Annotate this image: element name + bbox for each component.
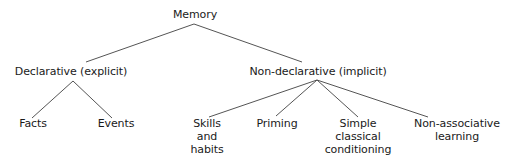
node-label-line: Non-associative bbox=[414, 117, 500, 130]
node-label: Declarative (explicit) bbox=[15, 65, 127, 78]
node-label: Non-declarative (implicit) bbox=[249, 65, 386, 78]
edge-nondeclarative-priming bbox=[276, 80, 317, 116]
node-label: Events bbox=[98, 117, 135, 130]
node-label-line: Skills bbox=[190, 117, 223, 130]
edge-memory-nondeclarative bbox=[194, 24, 302, 62]
node-label-line: learning bbox=[414, 130, 500, 143]
node-skills-and-habits: Skills and habits bbox=[190, 117, 223, 156]
node-label: Memory bbox=[173, 8, 217, 21]
node-simple-classical-conditioning: Simple classical conditioning bbox=[325, 117, 392, 156]
edge-memory-declarative bbox=[86, 24, 194, 62]
node-label-line: classical bbox=[325, 130, 392, 143]
node-facts: Facts bbox=[19, 117, 47, 130]
edge-nondeclarative-nonassociative bbox=[317, 80, 428, 117]
edge-declarative-facts bbox=[32, 81, 73, 118]
node-memory: Memory bbox=[173, 8, 217, 21]
node-label-line: conditioning bbox=[325, 143, 392, 156]
node-priming: Priming bbox=[256, 117, 297, 130]
edge-nondeclarative-skills bbox=[209, 80, 317, 117]
node-label-line: habits bbox=[190, 143, 223, 156]
node-nondeclarative: Non-declarative (implicit) bbox=[249, 65, 386, 78]
node-label: Priming bbox=[256, 117, 297, 130]
node-non-associative-learning: Non-associative learning bbox=[414, 117, 500, 143]
edge-nondeclarative-conditioning bbox=[317, 80, 358, 117]
node-label-line: and bbox=[190, 130, 223, 143]
node-declarative: Declarative (explicit) bbox=[15, 65, 127, 78]
node-label: Facts bbox=[19, 117, 47, 130]
node-events: Events bbox=[98, 117, 135, 130]
node-label-line: Simple bbox=[325, 117, 392, 130]
edge-declarative-events bbox=[73, 81, 112, 118]
